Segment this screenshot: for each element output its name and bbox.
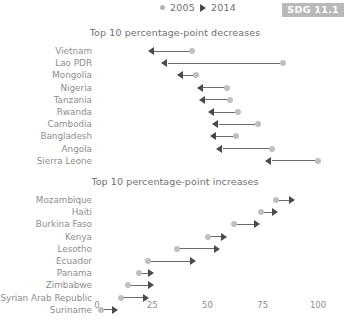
chart-row: Vietnam [0, 45, 350, 57]
data-point-2014 [148, 281, 154, 289]
row-track [97, 143, 342, 155]
axis-tick-label: 50 [202, 300, 213, 310]
chart-row: Haiti [0, 206, 350, 218]
row-label: Lesotho [0, 243, 92, 255]
row-track [97, 194, 342, 206]
row-label: Ecuador [0, 255, 92, 267]
status-badge: SDG 11.1 [282, 3, 344, 17]
row-label: Lao PDR [0, 57, 92, 69]
data-point-2005 [224, 85, 230, 91]
data-point-2014 [190, 257, 196, 265]
data-point-2014 [177, 71, 183, 79]
row-track [97, 82, 342, 94]
row-track [97, 267, 342, 279]
chart-row: Cambodia [0, 118, 350, 130]
row-track [97, 231, 342, 243]
data-point-2005 [227, 97, 233, 103]
chart-row: Zimbabwe [0, 279, 350, 291]
row-label: Nigeria [0, 82, 92, 94]
axis-tick-label: 25 [147, 300, 158, 310]
data-point-2005 [125, 282, 131, 288]
x-axis: 0255075100 [0, 300, 350, 314]
chart-row: Mongolia [0, 69, 350, 81]
row-label: Kenya [0, 231, 92, 243]
data-point-2005 [280, 60, 286, 66]
change-connector [177, 248, 215, 249]
row-track [97, 118, 342, 130]
change-connector [121, 297, 143, 298]
row-track [97, 279, 342, 291]
data-point-2005 [273, 197, 279, 203]
data-point-2014 [254, 220, 260, 228]
data-point-2005 [231, 221, 237, 227]
change-connector [272, 160, 318, 161]
row-track [97, 106, 342, 118]
data-point-2014 [199, 96, 205, 104]
data-point-2014 [212, 120, 218, 128]
data-point-2005 [145, 258, 151, 264]
data-point-2014 [216, 145, 222, 153]
data-point-2014 [208, 108, 214, 116]
triangle-marker-icon [200, 4, 206, 12]
change-connector [148, 261, 190, 262]
data-point-2005 [233, 133, 239, 139]
row-label: Rwanda [0, 106, 92, 118]
legend-label-2005: 2005 [170, 2, 195, 13]
axis-tick-label: 75 [257, 300, 268, 310]
data-point-2005 [269, 146, 275, 152]
row-label: Panama [0, 267, 92, 279]
chart-decreases: VietnamLao PDRMongoliaNigeriaTanzaniaRwa… [0, 45, 350, 167]
data-point-2014 [210, 132, 216, 140]
row-track [97, 94, 342, 106]
row-track [97, 155, 342, 167]
row-label: Burkina Faso [0, 218, 92, 230]
data-point-2005 [193, 72, 199, 78]
data-point-2005 [136, 270, 142, 276]
row-label: Bangladesh [0, 130, 92, 142]
row-track [97, 218, 342, 230]
chart-row: Mozambique [0, 194, 350, 206]
chart-increases: MozambiqueHaitiBurkina FasoKenyaLesothoE… [0, 194, 350, 297]
change-connector [219, 124, 259, 125]
row-track [97, 57, 342, 69]
change-connector [223, 148, 272, 149]
legend-label-2014: 2014 [211, 2, 236, 13]
data-point-2014 [161, 59, 167, 67]
axis-tick-label: 0 [94, 300, 99, 310]
data-point-2005 [189, 48, 195, 54]
chart-row: Panama [0, 267, 350, 279]
row-track [97, 255, 342, 267]
data-point-2014 [221, 233, 227, 241]
chart-row: Kenya [0, 231, 350, 243]
panel-title-decreases: Top 10 percentage-point decreases [0, 27, 350, 38]
chart-row: Sierra Leone [0, 155, 350, 167]
chart-row: Lesotho [0, 243, 350, 255]
row-track [97, 206, 342, 218]
data-point-2014 [148, 269, 154, 277]
data-point-2014 [214, 245, 220, 253]
chart-row: Ecuador [0, 255, 350, 267]
row-track [97, 69, 342, 81]
change-connector [205, 99, 229, 100]
change-connector [154, 51, 192, 52]
chart-row: Bangladesh [0, 130, 350, 142]
chart-row: Tanzania [0, 94, 350, 106]
data-point-2005 [315, 158, 321, 164]
row-label: Mozambique [0, 194, 92, 206]
chart-row: Nigeria [0, 82, 350, 94]
data-point-2014 [272, 208, 278, 216]
data-point-2005 [258, 209, 264, 215]
legend-entries: 2005 2014 [160, 2, 236, 13]
data-point-2014 [265, 157, 271, 165]
row-label: Haiti [0, 206, 92, 218]
axis-tick-label: 100 [310, 300, 326, 310]
chart-row: Angola [0, 143, 350, 155]
row-label: Tanzania [0, 94, 92, 106]
row-track [97, 130, 342, 142]
circle-marker-icon [160, 5, 165, 10]
change-connector [168, 63, 283, 64]
row-label: Angola [0, 143, 92, 155]
row-label: Sierra Leone [0, 155, 92, 167]
row-label: Zimbabwe [0, 279, 92, 291]
row-label: Cambodia [0, 118, 92, 130]
